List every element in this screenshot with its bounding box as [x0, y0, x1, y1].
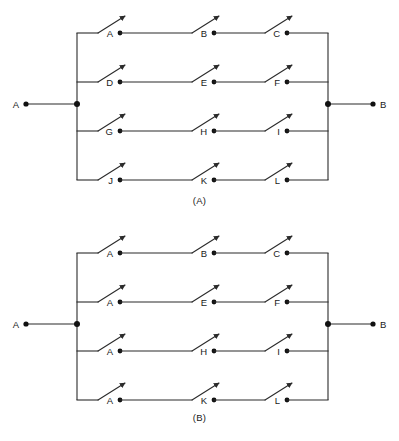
right-bus-junction-node: [325, 101, 331, 107]
switching-network-a: ABABCDEFGHIJKL: [0, 0, 399, 196]
switch-label: C: [273, 248, 280, 259]
figure-b-caption: (B): [0, 412, 399, 423]
switching-network-b: ABABCAEFAHIAKL: [0, 220, 399, 416]
switch-label: J: [108, 175, 113, 186]
left-bus-junction-node: [74, 101, 80, 107]
figure-b: ABABCAEFAHIAKL (B): [0, 220, 399, 441]
network-graphics-b: ABABCAEFAHIAKL: [13, 236, 387, 406]
switch-c-r0c2[interactable]: C: [265, 16, 292, 39]
right-terminal-node: [370, 321, 375, 326]
switch-label: A: [107, 28, 114, 39]
switch-l-r3c2[interactable]: L: [265, 383, 292, 406]
switch-h-r2c1[interactable]: H: [192, 114, 219, 137]
switch-label: I: [277, 346, 280, 357]
switch-h-r2c1[interactable]: H: [192, 334, 219, 357]
switch-label: I: [277, 126, 280, 137]
switch-label: B: [201, 28, 207, 39]
right-bus-junction-node: [325, 321, 331, 327]
switch-a-r2c0[interactable]: A: [98, 334, 125, 357]
switch-label: K: [201, 175, 208, 186]
switch-a-r3c0[interactable]: A: [98, 383, 125, 406]
network-graphics-a: ABABCDEFGHIJKL: [13, 16, 387, 186]
switch-label: E: [201, 77, 207, 88]
switch-label: C: [273, 28, 280, 39]
switch-e-r1c1[interactable]: E: [192, 65, 219, 88]
switch-label: H: [200, 346, 207, 357]
switch-label: L: [275, 175, 280, 186]
right-terminal-label: B: [380, 99, 386, 110]
switch-f-r1c2[interactable]: F: [265, 285, 292, 308]
switch-row: GHI: [77, 114, 328, 137]
switch-label: K: [201, 395, 208, 406]
switch-k-r3c1[interactable]: K: [192, 383, 219, 406]
left-terminal-node: [23, 321, 28, 326]
switch-label: E: [201, 297, 207, 308]
switch-g-r2c0[interactable]: G: [98, 114, 125, 137]
switch-label: D: [106, 77, 113, 88]
switch-label: H: [200, 126, 207, 137]
left-terminal-node: [23, 101, 28, 106]
switch-row: AEF: [77, 285, 328, 308]
switch-b-r0c1[interactable]: B: [192, 236, 219, 259]
switch-k-r3c1[interactable]: K: [192, 163, 219, 186]
switch-row: AHI: [77, 334, 328, 357]
right-terminal-label: B: [380, 319, 386, 330]
switch-label: A: [107, 248, 114, 259]
switch-row: ABC: [77, 16, 328, 39]
right-terminal-node: [370, 101, 375, 106]
switch-label: A: [107, 395, 114, 406]
switch-row: AKL: [77, 383, 328, 406]
figure-a-caption: (A): [0, 195, 399, 206]
switch-a-r1c0[interactable]: A: [98, 285, 125, 308]
switch-row: JKL: [77, 163, 328, 186]
switch-label: B: [201, 248, 207, 259]
switch-i-r2c2[interactable]: I: [265, 334, 292, 357]
switch-row: DEF: [77, 65, 328, 88]
figure-a: ABABCDEFGHIJKL (A): [0, 0, 399, 220]
switch-f-r1c2[interactable]: F: [265, 65, 292, 88]
left-bus-junction-node: [74, 321, 80, 327]
switch-label: A: [107, 297, 114, 308]
switch-row: ABC: [77, 236, 328, 259]
switch-e-r1c1[interactable]: E: [192, 285, 219, 308]
switch-label: A: [107, 346, 114, 357]
left-terminal-label: A: [13, 99, 20, 110]
switch-label: F: [274, 297, 280, 308]
switch-d-r1c0[interactable]: D: [98, 65, 125, 88]
switch-a-r0c0[interactable]: A: [98, 16, 125, 39]
left-terminal-label: A: [13, 319, 20, 330]
switch-a-r0c0[interactable]: A: [98, 236, 125, 259]
switch-label: L: [275, 395, 280, 406]
switch-c-r0c2[interactable]: C: [265, 236, 292, 259]
switch-label: G: [106, 126, 113, 137]
switch-b-r0c1[interactable]: B: [192, 16, 219, 39]
switch-l-r3c2[interactable]: L: [265, 163, 292, 186]
switch-label: F: [274, 77, 280, 88]
switch-i-r2c2[interactable]: I: [265, 114, 292, 137]
switch-j-r3c0[interactable]: J: [98, 163, 125, 186]
